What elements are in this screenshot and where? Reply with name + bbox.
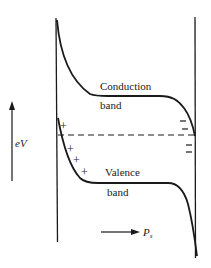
- conduction-band-label-line2: band: [100, 99, 122, 111]
- right-surface-line: [195, 17, 196, 258]
- positive-charge-3: +: [73, 153, 80, 167]
- polarization-label-sub: s: [150, 232, 153, 240]
- polarization-label: Ps: [142, 226, 153, 240]
- valence-band-label-line1: Valence: [105, 166, 140, 178]
- band-diagram: + + + + Conduction band Valence band eV …: [0, 0, 211, 268]
- positive-charge-1: +: [60, 119, 67, 133]
- band-diagram-canvas: + + + + Conduction band Valence band eV …: [0, 0, 211, 268]
- polarization-arrowhead-icon: [131, 229, 140, 235]
- positive-charge-4: +: [81, 165, 88, 179]
- conduction-band-curve: [57, 20, 195, 136]
- energy-axis-label: eV: [15, 137, 28, 149]
- conduction-band-label-line1: Conduction: [100, 80, 152, 92]
- valence-band-label-line2: band: [107, 186, 129, 198]
- left-surface-line: [56, 18, 58, 242]
- energy-axis-arrowhead-icon: [9, 101, 15, 110]
